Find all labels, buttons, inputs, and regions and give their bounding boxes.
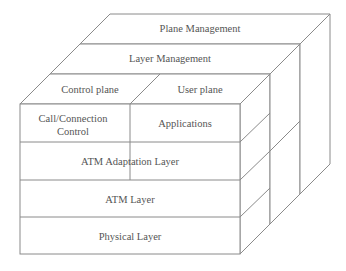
physical-layer-label: Physical Layer bbox=[99, 231, 162, 242]
user-plane-side-face bbox=[240, 74, 270, 254]
plane-management-side-face bbox=[300, 14, 330, 194]
aal-label: ATM Adaptation Layer bbox=[81, 156, 179, 167]
atm-reference-model-diagram: Plane Management Layer Management Contro… bbox=[0, 0, 346, 271]
layer-management-side-face bbox=[270, 44, 300, 224]
plane-management-label: Plane Management bbox=[160, 23, 241, 34]
call-connection-label-line2: Control bbox=[57, 126, 89, 137]
atm-layer-label: ATM Layer bbox=[105, 194, 155, 205]
applications-label: Applications bbox=[158, 118, 212, 129]
user-plane-label: User plane bbox=[177, 84, 223, 95]
control-plane-label: Control plane bbox=[61, 84, 119, 95]
call-connection-label-line1: Call/Connection bbox=[39, 113, 109, 124]
layer-management-label: Layer Management bbox=[129, 53, 211, 64]
